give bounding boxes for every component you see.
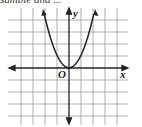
y-axis-label: y xyxy=(71,7,78,19)
origin-label: O xyxy=(58,68,66,80)
curve-left-arrow-icon xyxy=(42,9,47,16)
y-axis-up-arrow-icon xyxy=(67,8,72,14)
x-axis-label: x xyxy=(119,68,126,80)
grid xyxy=(8,8,128,125)
axes xyxy=(9,8,128,124)
x-axis-left-arrow-icon xyxy=(9,66,15,71)
coordinate-graph: y x O xyxy=(0,0,142,127)
y-axis-down-arrow-icon xyxy=(67,118,72,124)
curve-right-arrow-icon xyxy=(94,9,99,16)
